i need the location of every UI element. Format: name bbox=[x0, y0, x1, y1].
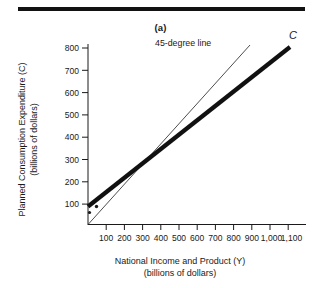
y-tick-marks bbox=[82, 48, 88, 204]
x-tick-label: 800 bbox=[227, 233, 241, 243]
y-tick-label: 600 bbox=[65, 88, 79, 98]
x-tick-label: 400 bbox=[154, 233, 168, 243]
x-tick-label: 100 bbox=[99, 233, 113, 243]
y-tick-labels: 800 700 600 500 400 300 200 100 bbox=[65, 43, 79, 209]
annotation-45-degree-line: 45-degree line bbox=[155, 38, 211, 48]
y-tick-label: 200 bbox=[65, 177, 79, 187]
y-tick-label: 400 bbox=[65, 132, 79, 142]
x-tick-label: 600 bbox=[190, 233, 204, 243]
x-tick-label: 500 bbox=[172, 233, 186, 243]
x-tick-label: 200 bbox=[117, 233, 131, 243]
x-tick-label: 1,100 bbox=[281, 233, 303, 243]
y-tick-label: 700 bbox=[65, 66, 79, 76]
x-tick-label: 1,000 bbox=[261, 233, 283, 243]
y-tick-label: 100 bbox=[65, 199, 79, 209]
axes-group bbox=[88, 44, 306, 225]
x-tick-label: 700 bbox=[208, 233, 222, 243]
x-tick-labels: 100 200 300 400 500 600 700 800 900 1,00… bbox=[99, 233, 302, 243]
figure-panel-a: (a) Planned Consumption Expenditure (C) … bbox=[0, 0, 321, 288]
series-c-line bbox=[88, 47, 290, 207]
y-tick-label: 300 bbox=[65, 155, 79, 165]
y-tick-label: 500 bbox=[65, 110, 79, 120]
x-tick-label: 300 bbox=[136, 233, 150, 243]
chart-plot-area: 800 700 600 500 400 300 200 100 100 200 … bbox=[0, 0, 321, 288]
series-45-degree-line bbox=[89, 45, 251, 224]
x-tick-label: 900 bbox=[245, 233, 259, 243]
series-label-c: C bbox=[289, 29, 297, 41]
y-tick-label: 800 bbox=[65, 43, 79, 53]
